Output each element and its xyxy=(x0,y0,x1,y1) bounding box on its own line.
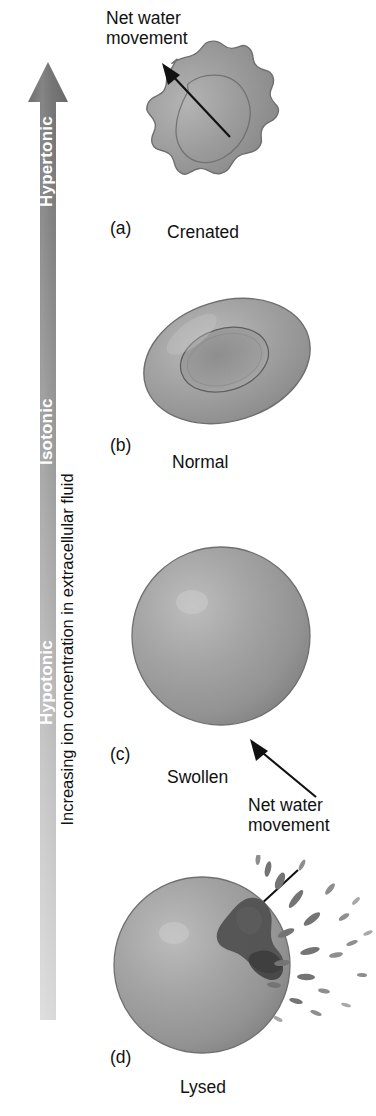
swollen-cell-illustration xyxy=(128,540,318,735)
axis-title: Increasing ion concentration in extracel… xyxy=(58,400,77,900)
lysed-cell-illustration xyxy=(110,855,376,1070)
panel-letter-c: (c) xyxy=(110,744,130,765)
normal-cell-illustration xyxy=(137,285,317,437)
tonicity-zone-hypotonic-label: Hypotonic xyxy=(37,695,57,725)
panel-caption-normal: Normal xyxy=(172,452,228,473)
panel-letter-a: (a) xyxy=(110,218,131,239)
tonicity-figure: Hypertonic Isotonic Hypotonic Increasing… xyxy=(0,0,376,1116)
tonicity-zone-hypertonic-label: Hypertonic xyxy=(37,177,57,207)
net-water-movement-label-top: Net water movement xyxy=(106,8,188,49)
tonicity-zone-isotonic-label: Isotonic xyxy=(37,435,57,465)
net-water-arrow-out xyxy=(140,55,250,145)
panel-caption-crenated: Crenated xyxy=(167,222,239,243)
net-water-movement-label-bottom: Net water movement xyxy=(248,795,330,836)
panel-letter-b: (b) xyxy=(110,435,131,456)
panel-caption-lysed: Lysed xyxy=(180,1077,226,1098)
panel-letter-d: (d) xyxy=(110,1047,131,1068)
panel-caption-swollen: Swollen xyxy=(167,767,228,788)
tonicity-zone-hypertonic: Hypertonic xyxy=(32,182,62,202)
